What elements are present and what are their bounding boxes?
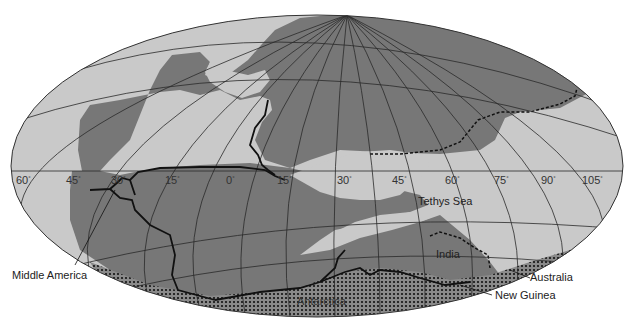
label-antarctica: Antarctica bbox=[297, 296, 346, 307]
label-tethys-sea: Tethys Sea bbox=[418, 196, 472, 207]
longitude-label-0: 0° bbox=[226, 175, 235, 186]
longitude-label-60w: 60° bbox=[16, 175, 31, 186]
label-australia: Australia bbox=[530, 272, 573, 283]
longitude-label-15e: 15° bbox=[277, 175, 292, 186]
label-new-guinea: New Guinea bbox=[495, 290, 556, 301]
label-india: India bbox=[436, 249, 460, 260]
longitude-label-75e: 75° bbox=[494, 175, 509, 186]
longitude-label-30e: 30° bbox=[337, 175, 352, 186]
longitude-label-30w: 30° bbox=[111, 175, 126, 186]
label-middle-america: Middle America bbox=[12, 270, 87, 281]
longitude-label-15w: 15° bbox=[165, 175, 180, 186]
longitude-label-60e: 60° bbox=[445, 175, 460, 186]
longitude-label-90e: 90° bbox=[541, 175, 556, 186]
longitude-label-45w: 45° bbox=[66, 175, 81, 186]
longitude-label-105e: 105° bbox=[582, 175, 603, 186]
longitude-label-45e: 45° bbox=[392, 175, 407, 186]
